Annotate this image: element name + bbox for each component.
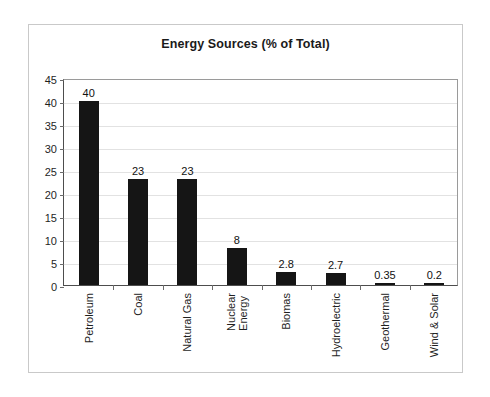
y-axis-tick-label: 30 bbox=[45, 143, 57, 155]
x-axis-tick bbox=[311, 285, 312, 290]
gridline bbox=[64, 149, 457, 150]
x-axis-label-line: Nuclear bbox=[225, 293, 237, 331]
bar-value-label: 0.35 bbox=[374, 269, 395, 281]
bar[interactable] bbox=[128, 179, 148, 285]
y-axis-tick-label: 5 bbox=[51, 258, 57, 270]
gridline bbox=[64, 126, 457, 127]
x-axis-tick bbox=[163, 285, 164, 290]
plot-area: 051015202530354045 40232382.82.70.350.2 … bbox=[63, 79, 458, 286]
x-axis-label-line: Natural Gas bbox=[181, 293, 193, 352]
x-axis-tick bbox=[212, 285, 213, 290]
bar-value-label: 2.7 bbox=[328, 259, 343, 271]
x-axis-category-label: Petroleum bbox=[83, 293, 95, 343]
bar-value-label: 23 bbox=[132, 165, 144, 177]
x-axis-label-line: Energy bbox=[237, 293, 249, 331]
y-axis-tick bbox=[60, 80, 64, 81]
y-axis-tick bbox=[60, 126, 64, 127]
bar[interactable] bbox=[177, 179, 197, 285]
x-axis-category-label: Wind & Solar bbox=[428, 293, 440, 357]
gridline bbox=[64, 218, 457, 219]
x-axis-label-line: Geothermal bbox=[379, 293, 391, 350]
gridline bbox=[64, 264, 457, 265]
x-axis-category-label: NuclearEnergy bbox=[225, 293, 249, 331]
y-axis-tick bbox=[60, 172, 64, 173]
chart-title: Energy Sources (% of Total) bbox=[29, 37, 462, 51]
bar-value-label: 40 bbox=[83, 87, 95, 99]
y-axis-tick-label: 20 bbox=[45, 189, 57, 201]
x-axis-tick bbox=[410, 285, 411, 290]
x-axis-tick bbox=[113, 285, 114, 290]
y-axis-tick bbox=[60, 218, 64, 219]
bar[interactable] bbox=[424, 283, 444, 285]
bar-value-label: 8 bbox=[234, 234, 240, 246]
x-axis-category-label: Geothermal bbox=[379, 293, 391, 350]
bar[interactable] bbox=[276, 272, 296, 285]
x-axis-label-line: Hydroelectric bbox=[330, 293, 342, 357]
gridline bbox=[64, 241, 457, 242]
x-axis-category-label: Natural Gas bbox=[181, 293, 193, 352]
x-axis-category-label: Hydroelectric bbox=[330, 293, 342, 357]
y-axis-tick-label: 35 bbox=[45, 120, 57, 132]
x-axis-label-line: Biomas bbox=[280, 293, 292, 330]
bar[interactable] bbox=[79, 101, 99, 285]
x-axis-label-line: Coal bbox=[132, 293, 144, 316]
x-axis-label-line: Petroleum bbox=[83, 293, 95, 343]
gridline bbox=[64, 172, 457, 173]
bar[interactable] bbox=[227, 248, 247, 285]
y-axis-tick bbox=[60, 149, 64, 150]
x-axis-tick bbox=[360, 285, 361, 290]
y-axis-tick-label: 25 bbox=[45, 166, 57, 178]
y-axis-tick-label: 45 bbox=[45, 74, 57, 86]
y-axis-tick bbox=[60, 241, 64, 242]
y-axis-tick-label: 0 bbox=[51, 281, 57, 293]
bar-value-label: 23 bbox=[181, 165, 193, 177]
y-axis-tick-label: 15 bbox=[45, 212, 57, 224]
y-axis-tick bbox=[60, 195, 64, 196]
x-axis-tick bbox=[262, 285, 263, 290]
bar-value-label: 2.8 bbox=[279, 258, 294, 270]
bar[interactable] bbox=[326, 273, 346, 285]
y-axis-tick bbox=[60, 264, 64, 265]
y-axis-tick bbox=[60, 103, 64, 104]
bar[interactable] bbox=[375, 283, 395, 285]
gridline bbox=[64, 103, 457, 104]
figure-frame: Energy Sources (% of Total) 051015202530… bbox=[28, 24, 463, 373]
bar-value-label: 0.2 bbox=[427, 269, 442, 281]
y-axis-tick bbox=[60, 287, 64, 288]
x-axis-category-label: Coal bbox=[132, 293, 144, 316]
y-axis-tick-label: 10 bbox=[45, 235, 57, 247]
x-axis-label-line: Wind & Solar bbox=[428, 293, 440, 357]
y-axis-tick-label: 40 bbox=[45, 97, 57, 109]
x-axis-category-label: Biomas bbox=[280, 293, 292, 330]
gridline bbox=[64, 195, 457, 196]
